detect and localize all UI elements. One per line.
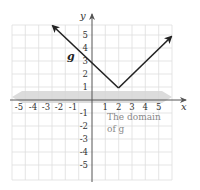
svg-text:-1: -1 <box>80 108 88 118</box>
svg-text:5: 5 <box>156 102 161 112</box>
svg-text:5: 5 <box>83 30 88 40</box>
svg-text:3: 3 <box>129 102 134 112</box>
x-tick-labels: -5 -4 -3 -2 -1 1 2 3 4 5 <box>15 102 162 112</box>
svg-text:-4: -4 <box>29 102 37 112</box>
svg-text:-3: -3 <box>80 134 88 144</box>
svg-text:1: 1 <box>103 102 108 112</box>
y-axis-label: y <box>79 10 86 21</box>
x-axis-label: x <box>181 101 187 112</box>
svg-text:-2: -2 <box>80 121 88 131</box>
svg-text:2: 2 <box>83 69 88 79</box>
svg-text:-2: -2 <box>55 102 63 112</box>
svg-text:-5: -5 <box>80 160 88 170</box>
function-label: g <box>67 50 75 63</box>
svg-text:-4: -4 <box>80 147 88 157</box>
svg-text:-1: -1 <box>69 102 77 112</box>
graph-of-g: x y -5 -4 -3 -2 -1 1 2 3 4 5 5 4 3 2 1 -… <box>0 0 200 190</box>
svg-text:-3: -3 <box>42 102 50 112</box>
svg-text:1: 1 <box>83 82 88 92</box>
svg-text:4: 4 <box>143 102 148 112</box>
svg-text:-5: -5 <box>15 102 23 112</box>
domain-annotation-line1: The domain <box>107 112 161 122</box>
domain-annotation-line2: of g <box>107 124 125 134</box>
svg-text:4: 4 <box>83 43 88 53</box>
svg-text:2: 2 <box>116 102 121 112</box>
